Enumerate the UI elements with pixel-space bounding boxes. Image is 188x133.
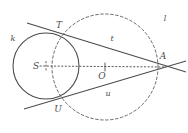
label-point-a: A xyxy=(159,51,167,61)
label-curve-l: l xyxy=(164,14,167,23)
label-point-s: S xyxy=(33,61,39,71)
label-point-t: T xyxy=(56,20,63,30)
tangent-line-t xyxy=(27,23,186,72)
geometry-canvas: T U A S O k l t u xyxy=(0,0,188,133)
label-point-u: U xyxy=(54,104,62,114)
label-line-u: u xyxy=(105,89,110,98)
label-line-t: t xyxy=(110,34,114,43)
label-curve-k: k xyxy=(11,34,16,43)
label-point-o: O xyxy=(98,71,106,81)
geometry-figure: T U A S O k l t u xyxy=(0,0,188,133)
center-line-s-a xyxy=(40,66,166,67)
